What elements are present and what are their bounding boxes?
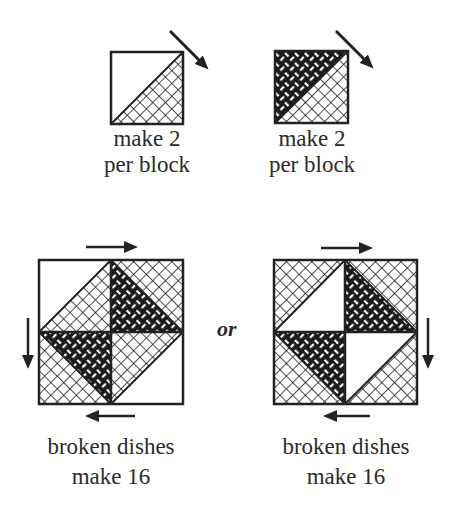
block-a-label-line1: broken dishes (31, 434, 191, 460)
block-b-label-line1: broken dishes (266, 434, 426, 460)
hst-unit-white-crosshatch (111, 31, 205, 124)
or-connector: or (217, 316, 237, 342)
hst-unit-weave-crosshatch (275, 31, 370, 123)
block-a-label-line2: make 16 (31, 464, 191, 490)
block-b-label-line2: make 16 (266, 464, 426, 490)
block-b-label: broken dishes make 16 (266, 434, 426, 490)
broken-dishes-block-b (274, 248, 428, 416)
unit-2-label-line2: per block (232, 152, 392, 178)
unit-1-label-line2: per block (67, 152, 227, 178)
unit-2-label-line1: make 2 (232, 126, 392, 152)
broken-dishes-block-a (28, 247, 183, 416)
unit-1-label: make 2 per block (67, 126, 227, 178)
unit-1-label-line1: make 2 (67, 126, 227, 152)
block-a-label: broken dishes make 16 (31, 434, 191, 490)
unit-2-label: make 2 per block (232, 126, 392, 178)
